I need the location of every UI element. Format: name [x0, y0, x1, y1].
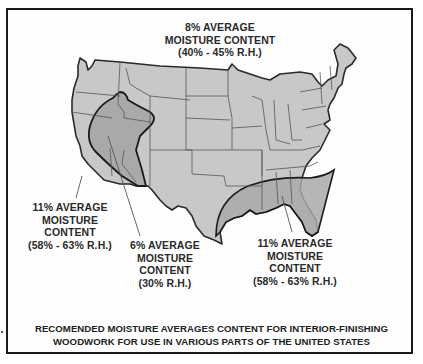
leader-southeast: [282, 196, 292, 232]
leader-southwest: [108, 136, 140, 236]
leader-lines: [0, 0, 423, 364]
caption-line-1: RECOMENDED MOISTURE AVERAGES CONTENT FOR…: [10, 323, 413, 336]
figure-caption: RECOMENDED MOISTURE AVERAGES CONTENT FOR…: [10, 323, 413, 348]
caption-line-2: WOODWORK FOR USE IN VARIOUS PARTS OF THE…: [10, 336, 413, 349]
leader-west: [76, 176, 82, 198]
